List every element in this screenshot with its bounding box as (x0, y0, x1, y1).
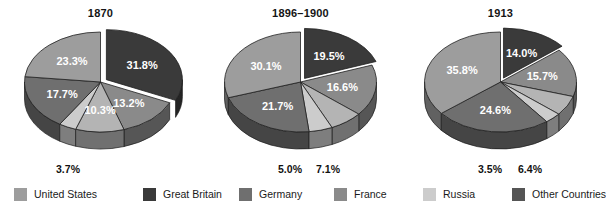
legend-item[interactable]: France (334, 185, 387, 203)
pie-chart-1913: 1913 14.0%15.7%24.6%35.8% 3.5%6.4% (400, 0, 601, 182)
legend-item[interactable]: Russia (423, 185, 475, 203)
pie-svg-1870: 31.8%13.2%10.3%17.7%23.3% (0, 20, 201, 162)
legend-item[interactable]: Germany (239, 185, 302, 203)
pie-slice-label: 19.5% (313, 50, 344, 62)
legend-item[interactable]: Other Countries (512, 185, 606, 203)
pie-slice-label: 10.3% (84, 104, 115, 116)
legend-item[interactable]: United States (14, 185, 97, 203)
pie-slice-label: 35.8% (447, 64, 478, 76)
legend-item-label: Great Britain (163, 188, 222, 201)
pie-slice-label: 30.1% (250, 60, 281, 72)
pie-slice-label: 23.3% (56, 55, 87, 67)
pie-slice-label: 24.6% (480, 104, 511, 116)
pie-external-label: 6.4% (518, 163, 542, 175)
legend-swatch-icon (14, 188, 27, 201)
charts-row: 1870 31.8%13.2%10.3%17.7%23.3% 3.7% 1896… (0, 0, 603, 182)
pie-slice-label: 17.7% (47, 88, 78, 100)
pie-slice-label: 21.7% (262, 100, 293, 112)
legend-item-label: Germany (259, 188, 302, 201)
pie-svg-1896-1900: 19.5%16.6%21.7%30.1% (200, 20, 401, 162)
pie-svg-1913: 14.0%15.7%24.6%35.8% (400, 20, 601, 162)
legend-swatch-icon (512, 188, 525, 201)
chart-title: 1896–1900 (200, 7, 401, 19)
legend-item-label: United States (34, 188, 97, 201)
legend-item[interactable]: Great Britain (143, 185, 222, 203)
chart-title: 1870 (0, 7, 201, 19)
legend-item-label: Russia (443, 188, 475, 201)
pie-slice-label: 16.6% (327, 81, 358, 93)
pie-external-label: 5.0% (278, 163, 302, 175)
pie-slice-label: 13.2% (113, 97, 144, 109)
pie-chart-1896-1900: 1896–1900 19.5%16.6%21.7%30.1% 5.0%7.1% (200, 0, 401, 182)
pie-slice-label: 15.7% (527, 70, 558, 82)
legend-swatch-icon (423, 188, 436, 201)
pie-slice-label: 14.0% (506, 47, 537, 59)
pie-chart-1870: 1870 31.8%13.2%10.3%17.7%23.3% 3.7% (0, 0, 201, 182)
legend-swatch-icon (239, 188, 252, 201)
legend: United StatesGreat BritainGermanyFranceR… (0, 182, 603, 215)
pie-slice-label: 31.8% (127, 59, 158, 71)
legend-swatch-icon (143, 188, 156, 201)
legend-item-label: Other Countries (532, 188, 606, 201)
pie-external-label: 3.7% (56, 163, 80, 175)
pie-external-label: 7.1% (316, 163, 340, 175)
legend-swatch-icon (334, 188, 347, 201)
pie-external-label: 3.5% (478, 163, 502, 175)
legend-item-label: France (354, 188, 387, 201)
chart-title: 1913 (400, 7, 601, 19)
